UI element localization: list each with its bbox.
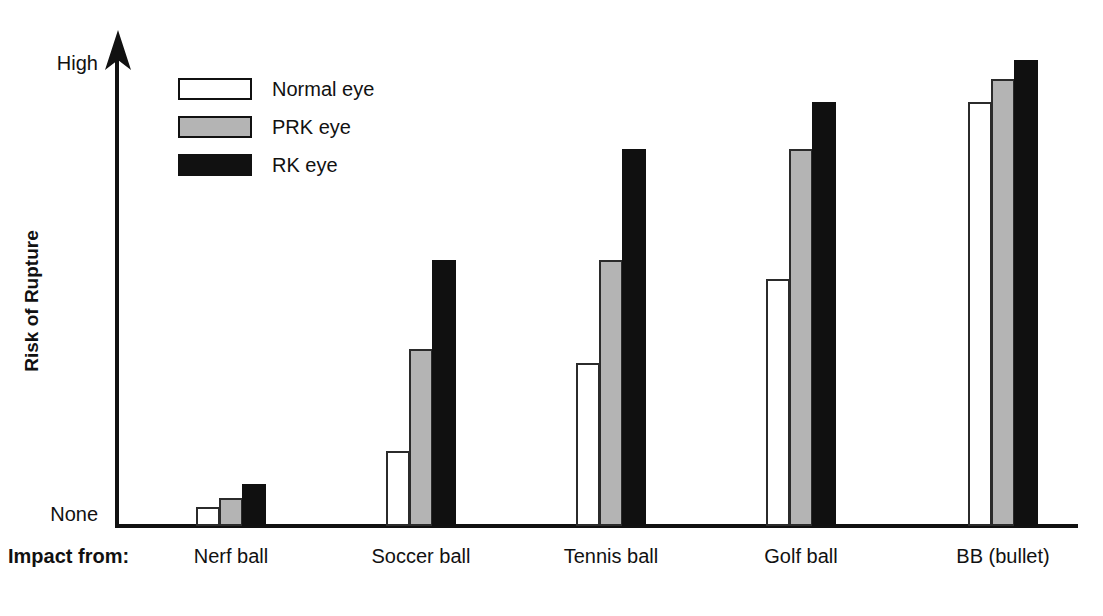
y-axis-none-label: None xyxy=(0,503,98,526)
bar-black-0 xyxy=(242,484,266,526)
bar-white-1 xyxy=(386,451,410,526)
x-axis-prefix-label: Impact from: xyxy=(8,545,129,568)
bar-gray-2 xyxy=(599,260,623,526)
x-axis-category-label-2: Tennis ball xyxy=(521,545,701,568)
y-axis-high-label: High xyxy=(0,52,98,75)
bar-black-3 xyxy=(812,102,836,526)
bar-white-2 xyxy=(576,363,600,526)
bar-white-3 xyxy=(766,279,790,526)
risk-of-rupture-bar-chart: High None Risk of Rupture Normal eye PRK… xyxy=(0,0,1103,616)
bar-white-0 xyxy=(196,507,220,526)
bar-black-1 xyxy=(432,260,456,526)
y-axis-title: Risk of Rupture xyxy=(21,191,43,411)
bar-gray-1 xyxy=(409,349,433,526)
bar-gray-4 xyxy=(991,79,1015,526)
bar-black-2 xyxy=(622,149,646,526)
x-axis-category-label-1: Soccer ball xyxy=(331,545,511,568)
bar-gray-3 xyxy=(789,149,813,526)
bar-gray-0 xyxy=(219,498,243,526)
bar-white-4 xyxy=(968,102,992,526)
bar-black-4 xyxy=(1014,60,1038,526)
x-axis-category-label-4: BB (bullet) xyxy=(913,545,1093,568)
x-axis-category-label-3: Golf ball xyxy=(711,545,891,568)
plot-area xyxy=(115,30,1078,526)
x-axis-category-label-0: Nerf ball xyxy=(141,545,321,568)
